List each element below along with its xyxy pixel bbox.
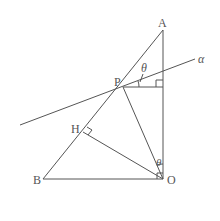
segment-AB — [43, 30, 163, 179]
label-B: B — [33, 174, 41, 186]
right-angle-mark-foot — [156, 80, 163, 87]
theta-pointer — [140, 74, 143, 82]
diagram-canvas — [0, 0, 220, 221]
label-alpha: α — [198, 53, 204, 65]
label-H: H — [71, 123, 80, 135]
right-angle-mark-H — [87, 127, 92, 135]
label-theta-bottom: θ — [156, 156, 161, 168]
label-theta-top: θ — [141, 62, 147, 74]
angle-arc-P — [138, 81, 139, 87]
label-O: O — [167, 174, 176, 186]
segment-OH — [83, 132, 163, 179]
line-alpha — [20, 59, 195, 125]
label-P: P — [114, 76, 121, 88]
geometry-diagram: A P H B O α θ θ — [0, 0, 220, 221]
label-A: A — [158, 17, 167, 29]
